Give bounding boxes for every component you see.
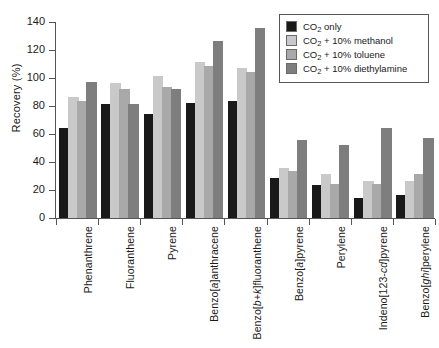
y-axis-title: Recovery (%) <box>10 38 22 158</box>
x-tick <box>267 219 268 225</box>
x-category-label-4: Benzo[b+k]fluoranthene <box>251 226 263 339</box>
y-tick-60 <box>49 134 55 135</box>
y-tick-label-80: 80 <box>0 99 45 111</box>
x-category-label-8: Benzo[ghi]perylene <box>419 226 431 318</box>
legend-swatch-icon <box>286 35 297 46</box>
legend-label: CO2 + 10% toluene <box>303 49 385 61</box>
bar <box>339 145 349 218</box>
y-tick-label-0: 0 <box>0 211 45 223</box>
x-tick <box>435 219 436 225</box>
x-tick <box>393 219 394 225</box>
y-tick-140 <box>49 22 55 23</box>
x-tick <box>140 219 141 225</box>
legend-label: CO2 only <box>303 21 342 33</box>
y-tick-label-20: 20 <box>0 183 45 195</box>
bar-group <box>56 22 98 218</box>
legend-item-co2-methanol: CO2 + 10% methanol <box>286 34 422 47</box>
y-tick-20 <box>49 190 55 191</box>
legend-item-co2-diethylamine: CO2 + 10% diethylamine <box>286 62 422 75</box>
legend-item-co2-only: CO2 only <box>286 20 422 33</box>
y-tick-label-60: 60 <box>0 127 45 139</box>
x-tick <box>182 219 183 225</box>
chart-legend: CO2 onlyCO2 + 10% methanolCO2 + 10% tolu… <box>279 14 429 83</box>
y-tick-120 <box>49 50 55 51</box>
legend-swatch-icon <box>286 21 297 32</box>
y-tick-80 <box>49 106 55 107</box>
y-tick-label-40: 40 <box>0 155 45 167</box>
x-category-label-6: Perylene <box>335 226 347 268</box>
x-tick <box>98 219 99 225</box>
bar-group <box>140 22 182 218</box>
bar <box>86 82 96 218</box>
bar <box>297 140 307 218</box>
x-category-label-5: Benzo[a]pyrene <box>293 226 305 301</box>
x-category-label-0: Phenanthrene <box>82 226 94 293</box>
bar-group <box>182 22 224 218</box>
legend-item-co2-toluene: CO2 + 10% toluene <box>286 48 422 61</box>
legend-swatch-icon <box>286 49 297 60</box>
bar <box>255 28 265 218</box>
bar <box>171 89 181 218</box>
y-tick-100 <box>49 78 55 79</box>
x-category-label-3: Benzo[a]anthracene <box>208 226 220 322</box>
bar <box>423 138 433 218</box>
legend-label: CO2 + 10% diethylamine <box>303 63 407 75</box>
x-tick <box>56 219 57 225</box>
x-tick <box>224 219 225 225</box>
y-tick-label-120: 120 <box>0 43 45 55</box>
y-tick-label-140: 140 <box>0 15 45 27</box>
bar <box>128 104 138 218</box>
x-category-label-1: Fluoranthene <box>124 226 136 289</box>
bar <box>213 41 223 218</box>
bar-group <box>98 22 140 218</box>
x-tick <box>351 219 352 225</box>
bar <box>381 128 391 218</box>
x-axis-line <box>55 218 435 219</box>
bar-group <box>224 22 266 218</box>
legend-swatch-icon <box>286 63 297 74</box>
recovery-bar-chart: Recovery (%) 020406080100120140 Phenanth… <box>0 0 439 348</box>
x-category-label-7: Indeno[123-cd]pyrene <box>377 226 389 330</box>
y-tick-label-100: 100 <box>0 71 45 83</box>
x-tick <box>309 219 310 225</box>
x-category-label-2: Pyrene <box>166 226 178 260</box>
y-tick-40 <box>49 162 55 163</box>
legend-label: CO2 + 10% methanol <box>303 35 393 47</box>
